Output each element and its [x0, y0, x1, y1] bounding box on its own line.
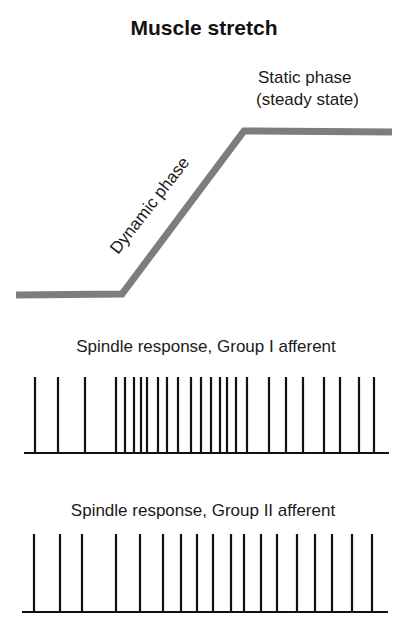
stretch-panel: Static phase (steady state) Dynamic phas… — [16, 68, 392, 295]
group1-label: Spindle response, Group I afferent — [76, 337, 336, 356]
group1-panel: Spindle response, Group I afferent — [24, 337, 389, 453]
group2-spike-train — [34, 534, 372, 612]
steady-state-label: (steady state) — [256, 90, 359, 109]
dynamic-phase-label: Dynamic phase — [106, 153, 193, 257]
group2-label: Spindle response, Group II afferent — [71, 501, 336, 520]
static-phase-label: Static phase — [258, 68, 352, 87]
group1-spike-train — [35, 377, 374, 453]
diagram-title: Muscle stretch — [130, 16, 277, 39]
group2-panel: Spindle response, Group II afferent — [22, 501, 388, 612]
muscle-spindle-diagram: Muscle stretch Static phase (steady stat… — [0, 0, 417, 643]
stretch-trace — [16, 131, 392, 295]
